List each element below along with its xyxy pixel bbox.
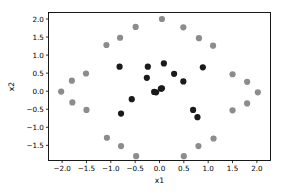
y-tick-label: −1.0 <box>26 123 44 132</box>
data-point <box>83 107 89 113</box>
data-point <box>210 135 216 141</box>
data-point <box>104 135 110 141</box>
data-point <box>171 71 177 77</box>
data-point <box>200 64 206 70</box>
data-point <box>116 64 122 70</box>
data-point <box>69 99 75 105</box>
y-tick-label: 0.0 <box>32 87 44 96</box>
data-point <box>190 107 196 113</box>
data-point <box>229 71 235 77</box>
x-axis-title: x1 <box>155 176 164 185</box>
data-point <box>118 110 124 116</box>
x-tick-label: −1.5 <box>78 164 95 173</box>
data-point <box>244 100 250 106</box>
data-point <box>144 75 150 81</box>
x-tick-label: 0.5 <box>178 164 189 173</box>
data-point <box>145 64 151 70</box>
data-point <box>161 60 167 66</box>
scatter-plot-figure: −2.0−1.5−1.0−0.50.00.51.01.52.0 −1.5−1.0… <box>0 0 287 194</box>
y-tick-label: 1.0 <box>32 51 44 60</box>
data-point <box>118 143 124 149</box>
data-point <box>181 153 187 159</box>
data-point <box>180 78 186 84</box>
data-point <box>194 114 200 120</box>
data-point <box>229 107 235 113</box>
data-point <box>159 16 165 22</box>
data-point <box>83 70 89 76</box>
data-point <box>133 153 139 159</box>
x-tick-label: 2.0 <box>251 164 263 173</box>
data-point <box>159 85 165 91</box>
data-point <box>196 35 202 41</box>
y-tick-label: 2.0 <box>32 15 44 24</box>
x-tick-label: −0.5 <box>126 164 143 173</box>
data-point <box>129 96 135 102</box>
data-point <box>195 143 201 149</box>
y-axis-title: x2 <box>7 82 16 91</box>
data-point <box>69 78 75 84</box>
data-point <box>180 24 186 30</box>
y-tick-label: 0.5 <box>32 69 43 78</box>
y-tick-label: −1.5 <box>26 141 43 150</box>
x-tick-label: 1.5 <box>227 164 238 173</box>
scatter-plot-canvas: −2.0−1.5−1.0−0.50.00.51.01.52.0 −1.5−1.0… <box>0 0 287 194</box>
data-point <box>210 43 216 49</box>
x-tick-label: 0.0 <box>154 164 166 173</box>
data-point <box>255 89 261 95</box>
data-point <box>117 35 123 41</box>
data-point <box>244 79 250 85</box>
x-tick-label: −2.0 <box>53 164 71 173</box>
data-point <box>133 24 139 30</box>
x-tick-label: 1.0 <box>202 164 214 173</box>
data-point <box>58 88 64 94</box>
x-tick-label: −1.0 <box>102 164 120 173</box>
y-tick-label: 1.5 <box>32 33 43 42</box>
y-tick-label: −0.5 <box>26 105 43 114</box>
data-point <box>103 42 109 48</box>
